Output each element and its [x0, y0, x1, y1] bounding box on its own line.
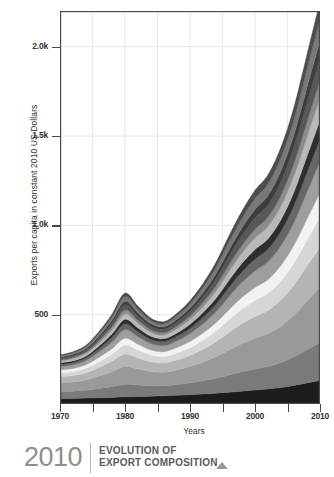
- y-axis-tick-mark: [52, 136, 60, 137]
- caption-title: EVOLUTION OF EXPORT COMPOSITION: [99, 443, 218, 468]
- x-axis-tick-label: 2000: [246, 411, 264, 421]
- caption-divider: [90, 443, 91, 473]
- y-axis-tick-mark: [52, 225, 60, 226]
- caption-title-line1: EVOLUTION OF: [99, 445, 218, 457]
- x-axis-tick-labels: 19701980199020002010: [0, 409, 334, 425]
- y-axis-tick-mark: [52, 315, 60, 316]
- caption-title-line2: EXPORT COMPOSITION: [99, 457, 218, 469]
- x-axis-tick-label: 1990: [181, 411, 199, 421]
- x-axis-tick-label: 1970: [51, 411, 69, 421]
- y-axis-tick-label: 2.0k: [0, 41, 48, 51]
- x-axis-tick-label: 2010: [311, 411, 329, 421]
- y-axis-tick-labels: 5001.0k1.5k2.0k: [0, 0, 48, 420]
- stacked-area-plot: [60, 11, 320, 404]
- x-axis-title: Years: [0, 426, 334, 436]
- caption-year: 2010: [24, 443, 90, 471]
- y-axis-tick-mark: [52, 47, 60, 48]
- triangle-up-icon: [216, 462, 228, 469]
- y-axis-tick-label: 1.5k: [0, 130, 48, 140]
- chart-figure: Exports per capita in constant 2010 US D…: [0, 0, 334, 477]
- y-axis-tick-label: 1.0k: [0, 219, 48, 229]
- plot-area: [60, 11, 320, 404]
- y-axis-tick-label: 500: [0, 309, 48, 319]
- x-axis-title-text: Years: [183, 426, 204, 436]
- caption-block: 2010 EVOLUTION OF EXPORT COMPOSITION: [24, 443, 314, 473]
- x-axis-tick-label: 1980: [116, 411, 134, 421]
